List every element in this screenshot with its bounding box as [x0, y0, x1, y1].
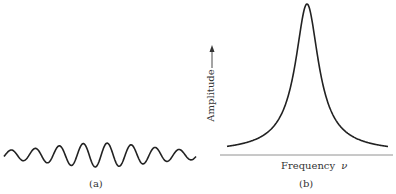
amplitude-arrow-head-icon [210, 45, 215, 52]
frequency-axis-label: Frequency ν [281, 160, 347, 171]
amplitude-label-text: Amplitude [205, 69, 216, 121]
frequency-label-text: Frequency [281, 160, 335, 171]
resonance-curve [227, 4, 388, 147]
wave-packet-curve [4, 143, 196, 167]
caption-a: (a) [89, 178, 103, 189]
caption-b: (b) [299, 178, 313, 189]
amplitude-axis-label: Amplitude [205, 69, 216, 121]
nu-symbol: ν [341, 160, 347, 171]
